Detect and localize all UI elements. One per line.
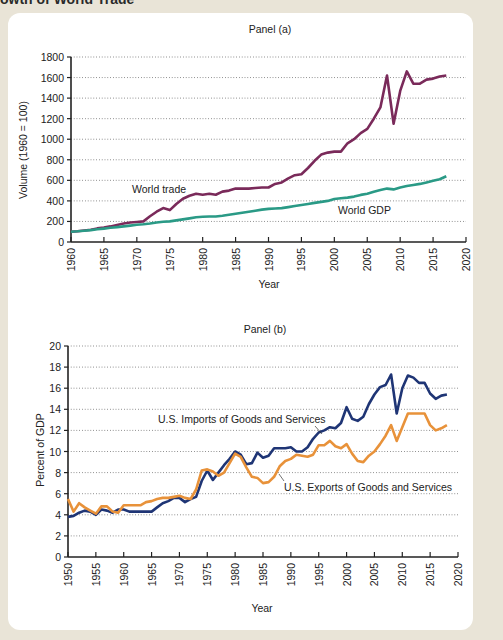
x-tick-label: 1975 [164, 248, 176, 272]
panel-a-axes [67, 57, 466, 242]
x-tick-label: 2020 [460, 248, 472, 272]
panel-a-y-axis-title: Volume (1960 = 100) [17, 101, 29, 199]
y-tick-label: 20 [49, 340, 61, 352]
panel-b-x-axis-title: Year [251, 602, 273, 614]
panel-b-y-tick-labels: 02468101214161820 [49, 340, 61, 563]
x-tick-label: 1960 [65, 248, 77, 272]
x-tick-label: 2005 [368, 563, 380, 587]
x-tick-label: 2000 [328, 248, 340, 272]
y-tick-label: 6 [55, 488, 61, 500]
x-tick-label: 1985 [257, 563, 269, 587]
x-tick-label: 2015 [424, 563, 436, 587]
y-tick-label: 2 [55, 530, 61, 542]
x-tick-label: 1965 [146, 563, 158, 587]
x-tick-label: 1990 [285, 563, 297, 587]
x-tick-label: 2015 [427, 248, 439, 272]
panel-a-title: Panel (a) [249, 23, 292, 35]
x-tick-label: 1995 [313, 563, 325, 587]
y-tick-label: 4 [55, 509, 61, 521]
y-tick-label: 200 [46, 215, 64, 227]
panel-a-x-tick-labels: 1960196519701975198019851990199520002005… [65, 248, 472, 272]
world-trade-label: World trade [132, 183, 186, 195]
y-tick-label: 1200 [41, 113, 65, 125]
y-tick-label: 0 [58, 236, 64, 248]
y-tick-label: 400 [46, 195, 64, 207]
y-tick-label: 600 [46, 174, 64, 186]
y-tick-label: 0 [55, 551, 61, 563]
y-tick-label: 1600 [41, 72, 65, 84]
world-gdp-label: World GDP [338, 204, 391, 216]
x-tick-label: 2010 [396, 563, 408, 587]
y-tick-label: 16 [49, 382, 61, 394]
y-tick-label: 1400 [41, 92, 65, 104]
panel-a-x-axis-title: Year [258, 278, 280, 290]
y-tick-label: 18 [49, 361, 61, 373]
x-tick-label: 1980 [197, 248, 209, 272]
x-tick-label: 1950 [62, 563, 74, 587]
x-tick-label: 2005 [361, 248, 373, 272]
x-tick-label: 1970 [131, 248, 143, 272]
panel-b-chart: Panel (b) 02468101214161820 195019551960… [34, 323, 464, 614]
panel-b-y-axis-title: Percent of GDP [34, 413, 46, 487]
us-imports-label: U.S. Imports of Goods and Services [158, 413, 326, 425]
x-tick-label: 1955 [90, 563, 102, 587]
x-tick-label: 1970 [173, 563, 185, 587]
x-tick-label: 2010 [394, 248, 406, 272]
us-exports-leader-line [279, 474, 284, 481]
x-tick-label: 2000 [341, 563, 353, 587]
panel-a-y-tick-labels: 020040060080010001200140016001800 [41, 51, 65, 248]
x-tick-label: 1985 [230, 248, 242, 272]
x-tick-label: 1995 [295, 248, 307, 272]
panel-a-chart: Panel (a) 020040060080010001200140016001… [17, 23, 472, 290]
y-tick-label: 1800 [41, 51, 65, 63]
panel-b-x-tick-labels: 1950195519601965197019751980198519901995… [62, 563, 464, 587]
y-tick-label: 12 [49, 424, 61, 436]
y-tick-label: 10 [49, 446, 61, 458]
y-tick-label: 800 [46, 154, 64, 166]
panel-b-gridlines [68, 346, 458, 536]
x-tick-label: 1980 [229, 563, 241, 587]
us-exports-label: U.S. Exports of Goods and Services [284, 481, 452, 493]
y-tick-label: 1000 [41, 133, 65, 145]
x-tick-label: 1975 [201, 563, 213, 587]
charts-canvas: Panel (a) 020040060080010001200140016001… [0, 0, 503, 640]
panel-b-series [68, 375, 447, 517]
y-tick-label: 14 [49, 403, 61, 415]
y-tick-label: 8 [55, 467, 61, 479]
series-line [68, 375, 447, 517]
x-tick-label: 1960 [118, 563, 130, 587]
panel-b-title: Panel (b) [244, 323, 287, 335]
x-tick-label: 1990 [263, 248, 275, 272]
x-tick-label: 2020 [452, 563, 464, 587]
panel-a-gridlines [71, 57, 466, 221]
x-tick-label: 1965 [98, 248, 110, 272]
series-line [68, 414, 447, 514]
